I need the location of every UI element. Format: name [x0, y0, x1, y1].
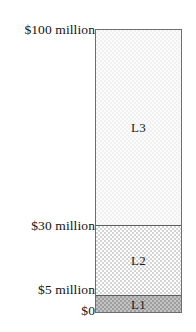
bar-segment-label-l3: L3 [131, 121, 146, 134]
bar-segment-l3[interactable]: L3 [96, 30, 181, 225]
bar-segment-l2[interactable]: L2 [96, 226, 181, 295]
axis-tick-label-5-million: $5 million [38, 282, 95, 297]
axis-tick-label-0: $0 [81, 303, 95, 318]
bar-segment-label-l1: L1 [131, 298, 146, 311]
bar-segment-label-l2: L2 [131, 254, 146, 267]
axis-tick-label-30-million: $30 million [31, 218, 95, 233]
stacked-bar: L3 L2 L1 [95, 29, 182, 313]
stacked-bar-figure: $100 million $30 million $5 million $0 L… [0, 0, 196, 332]
bar-segment-l1[interactable]: L1 [96, 296, 181, 312]
axis-tick-label-100-million: $100 million [24, 22, 95, 37]
